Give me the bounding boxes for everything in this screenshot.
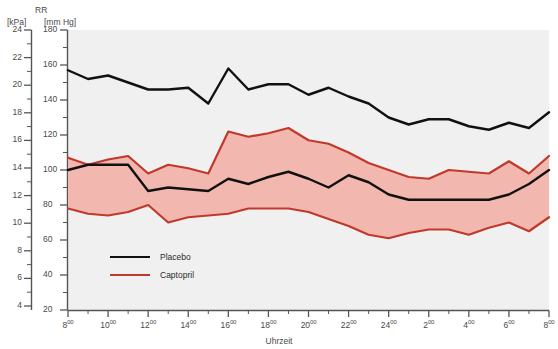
- legend-label-placebo: Placebo: [160, 252, 191, 262]
- chart-root: [kPa] RR [mm Hg] 2422201816141210864 204…: [0, 0, 558, 349]
- legend: Placebo Captopril: [110, 248, 194, 284]
- legend-item-captopril: Captopril: [110, 266, 194, 284]
- x-axis-title: Uhrzeit: [0, 336, 558, 346]
- legend-item-placebo: Placebo: [110, 248, 194, 266]
- legend-swatch-placebo: [110, 256, 150, 258]
- plot-area: [0, 0, 558, 349]
- legend-swatch-captopril: [110, 274, 150, 276]
- legend-label-captopril: Captopril: [160, 270, 194, 280]
